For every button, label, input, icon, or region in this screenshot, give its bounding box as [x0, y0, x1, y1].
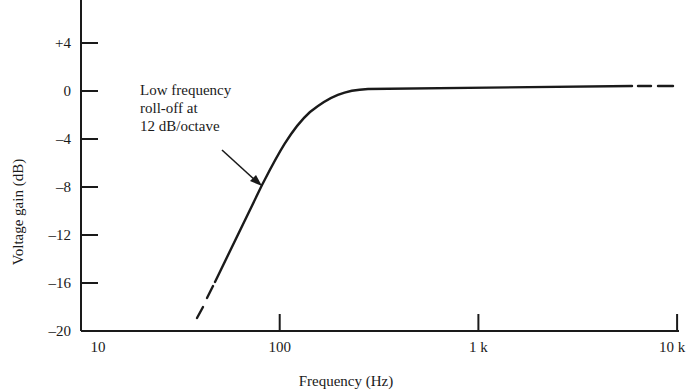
y-axis-title: Voltage gain (dB)	[10, 159, 27, 265]
y-tick-label: –4	[55, 131, 72, 147]
y-ticks: +40–4–8–12–16–20	[48, 35, 99, 339]
chart: +40–4–8–12–16–20 101001 k10 k Low freque…	[0, 0, 692, 392]
x-axis-title: Frequency (Hz)	[299, 373, 394, 390]
y-tick-label: –12	[48, 227, 72, 243]
y-tick-label: –20	[48, 323, 72, 339]
annotation-line-2: roll-off at	[140, 100, 198, 116]
y-tick-label: –8	[55, 179, 71, 195]
x-tick-label: 10 k	[659, 339, 686, 355]
annotation-line-1: Low frequency	[140, 82, 232, 98]
y-tick-label: +4	[55, 35, 71, 51]
curve-solid	[215, 86, 632, 282]
y-tick-label: 0	[64, 83, 72, 99]
annotation: Low frequency roll-off at 12 dB/octave	[140, 82, 262, 186]
curve-dash-low-1	[197, 307, 203, 318]
x-tick-label: 100	[268, 339, 291, 355]
x-ticks: 101001 k10 k	[91, 314, 686, 355]
y-tick-label: –16	[48, 275, 72, 291]
gain-curve	[197, 86, 673, 318]
x-tick-label: 10	[91, 339, 106, 355]
x-tick-label: 1 k	[469, 339, 488, 355]
annotation-line-3: 12 dB/octave	[140, 118, 220, 134]
curve-dash-low-2	[207, 286, 213, 298]
axes	[81, 0, 679, 331]
annotation-arrow	[222, 150, 256, 181]
